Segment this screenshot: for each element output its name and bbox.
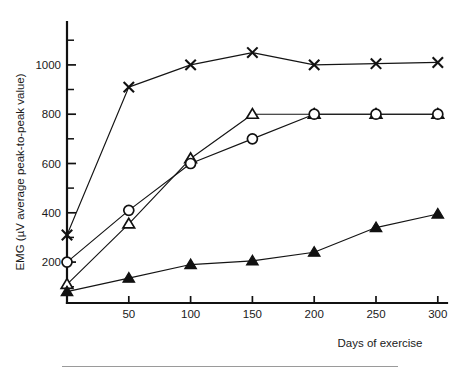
x-tick-label: 100 — [181, 308, 200, 320]
data-point-marker — [186, 159, 196, 169]
figure-panel: 200 400 600 800 1000 50 100 150 200 250 … — [0, 0, 459, 377]
series-open-circle-series — [62, 109, 443, 267]
data-point-marker — [247, 134, 257, 144]
data-point-marker — [247, 109, 259, 119]
x-axis-title: Days of exercise — [337, 337, 422, 349]
data-point-marker — [371, 109, 381, 119]
y-tick-label: 800 — [42, 108, 61, 120]
x-axis-tick-labels: 50 100 150 200 250 300 — [122, 308, 447, 320]
data-point-marker — [124, 205, 134, 215]
y-tick-label: 400 — [42, 207, 61, 219]
x-tick-label: 250 — [366, 308, 385, 320]
series-filled-triangle-series — [61, 208, 443, 295]
series-line — [67, 214, 438, 292]
x-tick-label: 50 — [122, 308, 135, 320]
y-axis-title: EMG (µV average peak-to-peak value) — [14, 73, 26, 270]
data-point-marker — [309, 109, 319, 119]
data-point-marker — [433, 109, 443, 119]
y-tick-label: 200 — [42, 256, 61, 268]
data-point-marker — [432, 208, 444, 218]
y-tick-label: 1000 — [35, 59, 61, 71]
data-point-marker — [308, 247, 320, 257]
axis-group — [67, 22, 447, 303]
y-tick-label: 600 — [42, 158, 61, 170]
data-point-marker — [62, 257, 72, 267]
data-point-marker — [185, 60, 195, 70]
x-tick-label: 200 — [305, 308, 324, 320]
data-series-layer — [61, 47, 443, 295]
data-point-marker — [124, 82, 134, 92]
y-axis-tick-labels: 200 400 600 800 1000 — [35, 59, 61, 268]
x-tick-label: 150 — [243, 308, 262, 320]
chart-canvas: 200 400 600 800 1000 50 100 150 200 250 … — [0, 0, 459, 377]
footer-divider — [62, 366, 398, 367]
x-tick-label: 300 — [428, 308, 447, 320]
data-point-marker — [247, 47, 257, 57]
